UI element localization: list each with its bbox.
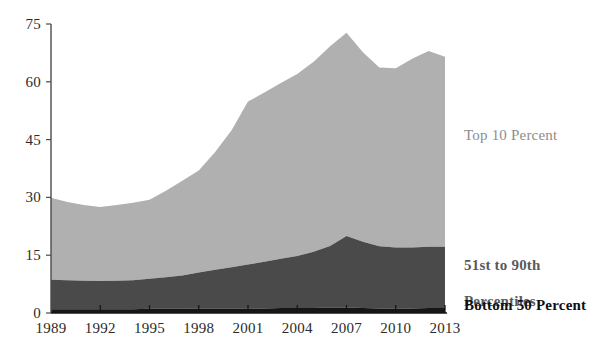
series-label-top-10-percent: Top 10 Percent: [464, 126, 557, 144]
series-label-bottom-50-percent: Bottom 50 Percent: [464, 296, 586, 314]
series-label-51st-to-90th-line1: 51st to 90th: [464, 257, 541, 273]
series-annotations: Top 10 Percent 51st to 90th Percentiles …: [0, 0, 611, 352]
chart-figure: 01530456075 1989199219951998200120042007…: [0, 0, 611, 352]
